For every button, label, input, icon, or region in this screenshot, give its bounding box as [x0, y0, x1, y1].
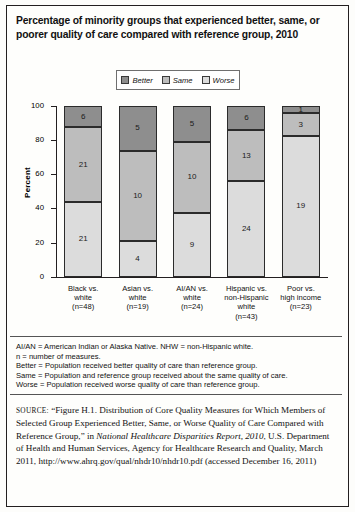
bar-segment-worse: 9 — [173, 213, 211, 277]
legend-label-worse: Worse — [213, 76, 235, 85]
x-label-line2: high income — [274, 293, 328, 302]
bar-segment-value: 21 — [79, 235, 88, 243]
chart-legend: Better Same Worse — [116, 70, 240, 90]
bar-segment-value: 19 — [296, 202, 305, 210]
divider-above-source — [10, 394, 342, 395]
note-line-3: Better = Population received better qual… — [16, 361, 336, 371]
x-label-line1: Asian vs. — [110, 284, 164, 293]
legend-label-same: Same — [173, 76, 193, 85]
x-label-poor: Poor vs. high income (n=23) — [274, 284, 328, 321]
bar-segment-value: 21 — [79, 161, 88, 169]
y-tick-label-80: 80 — [35, 136, 44, 144]
x-label-line1: AI/AN vs. — [165, 284, 219, 293]
x-label-line4: (n=43) — [219, 312, 273, 321]
bar-segment-value: 4 — [135, 255, 139, 263]
bar-segment-worse: 24 — [227, 181, 265, 276]
bar-series-container: 6212151045109613241319 — [56, 106, 328, 277]
bar-segment-better: 6 — [64, 106, 102, 127]
bar-segment-value: 10 — [188, 173, 197, 181]
legend-item-better: Better — [121, 76, 152, 85]
note-line-4: Same = Population and reference group re… — [16, 371, 336, 381]
note-line-2: n = number of measures. — [16, 352, 336, 362]
bar-segment-value: 24 — [242, 225, 251, 233]
note-line-1: AI/AN = American Indian or Alaska Native… — [16, 342, 336, 352]
x-label-line2: white — [110, 293, 164, 302]
x-label-line1: Black vs. — [56, 284, 110, 293]
y-tick-label-40: 40 — [35, 204, 44, 212]
x-axis-labels: Black vs. white (n=48) Asian vs. white (… — [56, 284, 328, 321]
figure-source: SOURCE: “Figure H.1. Distribution of Cor… — [16, 404, 334, 467]
chart-plot-area: Percent 100 80 60 40 20 0 62121510451096 — [20, 100, 335, 290]
y-tick-label-0: 0 — [40, 273, 44, 281]
figure-page: Percentage of minority groups that exper… — [0, 0, 355, 512]
bar-column: 1319 — [282, 106, 320, 277]
legend-label-better: Better — [132, 76, 152, 85]
figure-notes: AI/AN = American Indian or Alaska Native… — [16, 342, 336, 390]
bar-column: 5109 — [173, 106, 211, 277]
x-label-line2: non-Hispanic — [219, 293, 273, 302]
bar-segment-value: 5 — [135, 124, 139, 132]
source-label: SOURCE: — [16, 406, 49, 415]
source-italic-title: National Healthcare Disparities Report, … — [96, 431, 263, 441]
note-line-5: Worse = Population received worse qualit… — [16, 380, 336, 390]
x-label-line3: white — [219, 302, 273, 311]
y-axis-label: Percent — [23, 167, 32, 198]
chart-axes: 100 80 60 40 20 0 6212151045109613241319 — [56, 106, 328, 278]
bar-column: 5104 — [119, 106, 157, 277]
x-label-line1: Poor vs. — [274, 284, 328, 293]
bar-segment-value: 5 — [190, 120, 194, 128]
bar-segment-same: 10 — [119, 151, 157, 241]
bar-segment-same: 13 — [227, 130, 265, 182]
bar-segment-better: 5 — [173, 106, 211, 142]
x-label-line2: white — [56, 293, 110, 302]
legend-swatch-same — [162, 76, 170, 84]
legend-item-worse: Worse — [202, 76, 235, 85]
bar-segment-better: 1 — [282, 106, 320, 113]
bar-segment-same: 3 — [282, 113, 320, 135]
bar-segment-value: 6 — [244, 114, 248, 122]
legend-swatch-better — [121, 76, 129, 84]
x-label-hispanic: Hispanic vs. non-Hispanic white (n=43) — [219, 284, 273, 321]
y-tick-label-100: 100 — [31, 102, 44, 110]
x-label-black: Black vs. white (n=48) — [56, 284, 110, 321]
x-label-aian: AI/AN vs. white (n=24) — [165, 284, 219, 321]
bar-segment-value: 9 — [190, 241, 194, 249]
figure-title: Percentage of minority groups that exper… — [16, 14, 328, 41]
bar-segment-better: 6 — [227, 106, 265, 130]
bar-segment-value: 6 — [81, 113, 85, 121]
bar-segment-value: 3 — [299, 121, 303, 129]
x-label-line3: (n=24) — [165, 302, 219, 311]
x-axis-line — [56, 277, 328, 278]
x-label-line3: (n=48) — [56, 302, 110, 311]
legend-item-same: Same — [162, 76, 193, 85]
bar-segment-same: 21 — [64, 127, 102, 202]
x-label-line1: Hispanic vs. — [219, 284, 273, 293]
bar-column: 61324 — [227, 106, 265, 277]
y-tick-0: 0 — [51, 277, 56, 278]
bar-segment-same: 10 — [173, 142, 211, 213]
x-label-line2: white — [165, 293, 219, 302]
bar-segment-value: 13 — [242, 152, 251, 160]
x-label-asian: Asian vs. white (n=19) — [110, 284, 164, 321]
x-label-line3: (n=19) — [110, 302, 164, 311]
divider-above-notes — [10, 336, 342, 337]
y-tick-label-60: 60 — [35, 170, 44, 178]
y-tick-label-20: 20 — [35, 239, 44, 247]
bar-segment-worse: 4 — [119, 241, 157, 277]
bar-segment-value: 10 — [133, 192, 142, 200]
bar-segment-worse: 19 — [282, 136, 320, 277]
bar-segment-better: 5 — [119, 106, 157, 151]
legend-swatch-worse — [202, 76, 210, 84]
x-label-line3: (n=23) — [274, 302, 328, 311]
bar-segment-worse: 21 — [64, 202, 102, 277]
bar-column: 62121 — [64, 106, 102, 277]
